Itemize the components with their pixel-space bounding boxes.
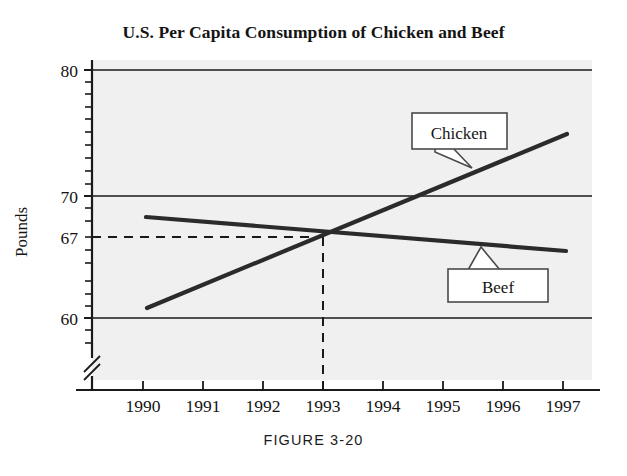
x-tick-label-1996: 1996 — [486, 396, 521, 416]
figure-caption: FIGURE 3-20 — [0, 432, 627, 448]
figure-container: U.S. Per Capita Consumption of Chicken a… — [0, 0, 627, 476]
x-tick-label-1991: 1991 — [186, 396, 221, 416]
y-tick-label-70: 70 — [61, 187, 79, 207]
x-tick-label-1997: 1997 — [546, 396, 581, 416]
x-tick-label-1990: 1990 — [126, 396, 161, 416]
y-tick-label-80: 80 — [61, 61, 79, 81]
callout-label-chicken: Chicken — [431, 124, 488, 143]
x-tick-label-1993: 1993 — [306, 396, 341, 416]
y-tick-label-67: 67 — [61, 228, 79, 248]
chart-plot: 80 70 67 60 1990 1991 1992 1993 1994 199… — [0, 0, 627, 476]
x-tick-label-1992: 1992 — [246, 396, 281, 416]
x-tick-label-1995: 1995 — [426, 396, 461, 416]
y-tick-label-60: 60 — [61, 309, 79, 329]
x-tick-label-1994: 1994 — [366, 396, 401, 416]
callout-label-beef: Beef — [482, 278, 514, 297]
x-ticks — [143, 381, 563, 390]
